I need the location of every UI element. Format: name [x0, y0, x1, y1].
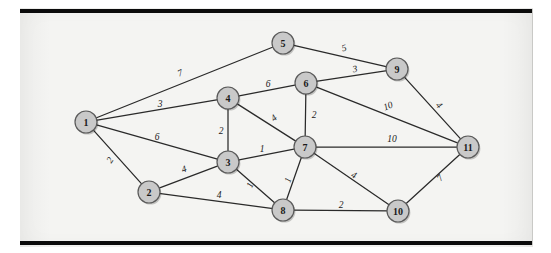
edge-weight-2-8: 4	[217, 190, 222, 200]
edge-weight-4-7: 4	[269, 112, 279, 123]
edge-weight-9-11: 4	[434, 100, 445, 111]
node-label-5: 5	[281, 38, 286, 49]
edge-weight-6-11: 10	[382, 100, 395, 113]
edge-weight-1-2: 2	[105, 155, 116, 165]
node-label-7: 7	[303, 142, 308, 153]
edge-weight-5-9: 5	[340, 43, 347, 54]
edge-weight-2-3: 4	[180, 163, 188, 174]
graph-edge-5-9	[293, 45, 388, 67]
node-label-10: 10	[393, 206, 403, 217]
node-label-8: 8	[281, 205, 286, 216]
graph-edge-8-10	[293, 210, 388, 211]
node-label-2: 2	[147, 187, 152, 198]
graph-edge-9-11	[404, 76, 462, 139]
node-label-1: 1	[84, 117, 89, 128]
node-label-4: 4	[226, 93, 231, 104]
graph-edge-2-3	[158, 166, 218, 189]
node-label-11: 11	[463, 142, 472, 153]
edge-weight-6-9: 3	[351, 64, 359, 75]
edge-weight-3-4: 2	[219, 126, 224, 136]
graph-edge-3-7	[238, 149, 295, 160]
edge-weight-7-10: 4	[350, 169, 359, 180]
node-label-6: 6	[304, 78, 309, 89]
edge-weight-1-5: 7	[176, 67, 185, 79]
graph-edge-1-2	[93, 129, 143, 184]
edge-weight-3-8: 1	[244, 181, 255, 189]
graph-edge-6-7	[305, 93, 306, 137]
edge-weight-7-8: 1	[282, 176, 293, 184]
graph-edge-3-8	[236, 169, 276, 204]
edge-weight-6-7: 2	[312, 110, 317, 120]
graph-edge-1-3	[96, 125, 219, 160]
node-label-9: 9	[395, 64, 400, 75]
edge-weight-10-11: 7	[435, 172, 446, 183]
edge-weight-1-3: 6	[155, 132, 160, 142]
graph-edge-6-9	[316, 71, 387, 82]
graph-edge-1-5	[95, 47, 273, 119]
edge-weight-3-7: 1	[260, 144, 265, 154]
edge-weight-4-6: 6	[266, 79, 271, 89]
graph-canvas: 73624421164532101104247 1234567891011	[0, 0, 551, 253]
graph-figure: 73624421164532101104247 1234567891011	[0, 0, 551, 253]
edge-weight-8-10: 2	[339, 200, 344, 210]
graph-edge-10-11	[405, 154, 460, 205]
edge-weight-7-11: 10	[387, 134, 397, 144]
graph-edge-4-7	[236, 103, 296, 141]
node-label-3: 3	[226, 157, 231, 168]
edge-weight-1-4: 3	[157, 99, 163, 109]
